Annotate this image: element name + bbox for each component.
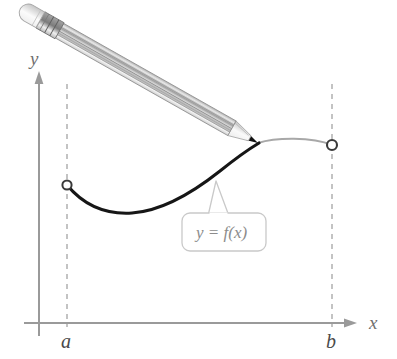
- curve-drawn-path: [67, 143, 259, 213]
- bound-label-b: b: [326, 330, 336, 352]
- pencil-facet-line-3: [61, 27, 233, 124]
- x-axis-arrowhead: [344, 319, 357, 328]
- bound-label-a: a: [61, 330, 71, 352]
- figure-container: y x a b y = f(x): [0, 0, 397, 359]
- y-axis-label: y: [28, 48, 39, 69]
- axes-group: y x: [24, 48, 378, 336]
- right-endpoint-open-circle: [327, 140, 337, 150]
- calculus-figure: y x a b y = f(x): [0, 0, 397, 359]
- pencil-facet-line-2: [59, 31, 231, 128]
- curve-pending-path: [258, 139, 332, 145]
- pencil-facet-line-1: [57, 35, 229, 132]
- pencil-group: [16, 1, 263, 151]
- endpoints-group: [62, 140, 337, 190]
- callout-tail: [208, 181, 229, 216]
- left-endpoint-open-circle: [62, 180, 71, 189]
- callout-group[interactable]: y = f(x): [182, 181, 266, 251]
- callout-label: y = f(x): [194, 223, 247, 242]
- curve-pending-group: [258, 139, 332, 145]
- x-axis-label: x: [368, 312, 378, 333]
- y-axis-arrowhead: [35, 71, 44, 84]
- curve-drawn-group: [67, 143, 259, 213]
